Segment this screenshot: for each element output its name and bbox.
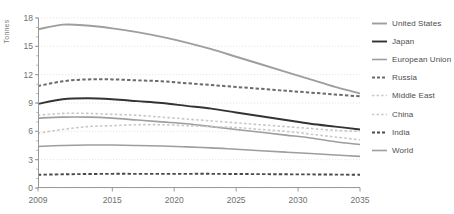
x-tick-label: 2020 bbox=[165, 195, 184, 205]
legend-item-world[interactable]: World bbox=[372, 141, 454, 159]
legend-swatch-icon bbox=[372, 55, 387, 64]
y-tick-label: 0 bbox=[28, 183, 33, 193]
legend-swatch-icon bbox=[372, 19, 387, 28]
legend-swatch-icon bbox=[372, 128, 387, 137]
x-tick-label: 2009 bbox=[29, 195, 48, 205]
legend-item-india[interactable]: India bbox=[372, 123, 454, 141]
legend-label: India bbox=[392, 128, 410, 137]
y-tick-label: 15 bbox=[24, 41, 33, 51]
legend-item-middle-east[interactable]: Middle East bbox=[372, 87, 454, 105]
x-tick-label: 2035 bbox=[351, 195, 370, 205]
legend-item-china[interactable]: China bbox=[372, 105, 454, 123]
legend-swatch-icon bbox=[372, 110, 387, 119]
legend-label: European Union bbox=[392, 55, 451, 64]
y-tick-label: 6 bbox=[28, 126, 33, 136]
legend-swatch-icon bbox=[372, 91, 387, 100]
legend-label: World bbox=[392, 146, 413, 155]
legend-swatch-icon bbox=[372, 37, 387, 46]
axis-lines bbox=[38, 18, 360, 188]
x-tick-label: 2030 bbox=[289, 195, 308, 205]
legend-label: United States bbox=[392, 19, 441, 28]
legend-label: Russia bbox=[392, 73, 417, 82]
line-chart: Tonnes 0369121518 2009201520202025203020… bbox=[0, 0, 454, 214]
legend-item-united-states[interactable]: United States bbox=[372, 14, 454, 32]
legend-label: Middle East bbox=[392, 91, 435, 100]
y-tick-label: 12 bbox=[24, 70, 33, 80]
legend-swatch-icon bbox=[372, 73, 387, 82]
legend-label: Japan bbox=[392, 37, 414, 46]
legend-label: China bbox=[392, 110, 413, 119]
y-tick-label: 3 bbox=[28, 155, 33, 165]
legend-item-japan[interactable]: Japan bbox=[372, 32, 454, 50]
legend-swatch-icon bbox=[372, 146, 387, 155]
y-tick-label: 18 bbox=[24, 13, 33, 23]
x-tick-label: 2025 bbox=[227, 195, 246, 205]
y-axis-title: Tonnes bbox=[3, 9, 10, 55]
plot-area: 0369121518 200920152020202520302035 bbox=[38, 18, 360, 188]
y-tick-label: 9 bbox=[28, 98, 33, 108]
x-tick-label: 2015 bbox=[103, 195, 122, 205]
legend-item-russia[interactable]: Russia bbox=[372, 69, 454, 87]
chart-legend: United StatesJapanEuropean UnionRussiaMi… bbox=[372, 14, 454, 160]
legend-item-european-union[interactable]: European Union bbox=[372, 50, 454, 68]
